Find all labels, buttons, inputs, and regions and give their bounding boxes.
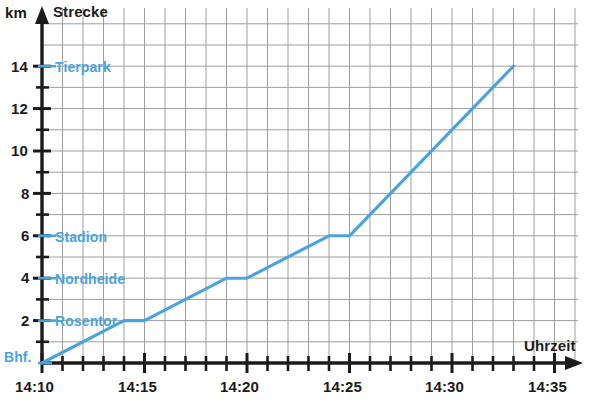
grid-lines [42,8,578,363]
x-axis-arrow-icon [565,356,583,370]
y-tick-label-4: 4 [21,269,29,286]
y-tick-label-8: 8 [21,185,29,202]
y-tick-label-14: 14 [11,58,28,75]
x-tick-label-1420: 14:20 [220,378,259,395]
y-axis-name-label: Strecke [53,3,108,20]
station-label-rosentor: Rosentor [55,313,117,329]
y-axis-arrow-icon [35,6,49,24]
y-tick-label-12: 12 [11,100,28,117]
y-axis-unit-label: km [5,4,27,21]
x-tick-label-1415: 14:15 [118,378,157,395]
x-axis-name-label: Uhrzeit [524,337,576,354]
distance-time-chart: km Strecke Uhrzeit 14 12 10 8 6 4 2 14:1… [0,0,591,408]
station-label-tierpark: Tierpark [55,59,111,75]
x-tick-label-1430: 14:30 [425,378,464,395]
y-axis [35,6,49,363]
station-label-stadion: Stadion [55,229,107,245]
x-tick-label-1435: 14:35 [528,378,567,395]
y-tick-label-6: 6 [21,227,29,244]
station-label-nordheide: Nordheide [55,271,125,287]
y-tick-label-10: 10 [11,142,28,159]
x-tick-label-1410: 14:10 [15,378,54,395]
y-tick-label-2: 2 [21,312,29,329]
x-tick-label-1425: 14:25 [323,378,362,395]
station-label-bhf: Bhf. [4,349,32,365]
